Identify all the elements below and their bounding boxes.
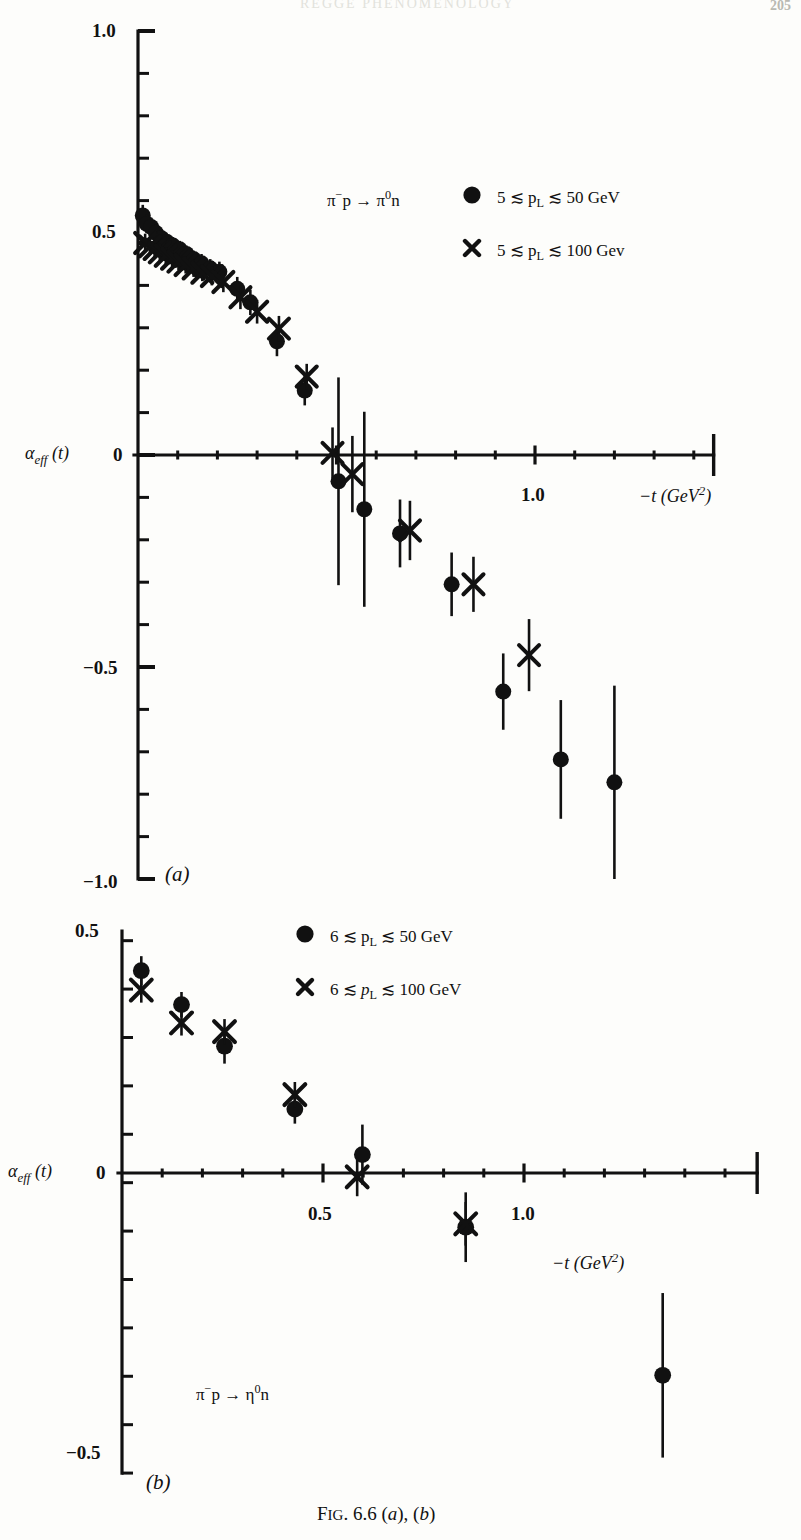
panel-a-axis-title: αeff (t)	[25, 443, 69, 468]
figure-caption: FIG. 6.6 (a), (b)	[317, 1503, 435, 1525]
panel-b-id: (b)	[146, 1470, 171, 1495]
panel-b-axis-title: αeff (t)	[8, 1161, 52, 1186]
panel-a-reaction-label: π−p → π0n	[327, 188, 400, 211]
panel-b-xaxis-title: −t (GeV2)	[552, 1250, 624, 1274]
panel-b-legend-item-1: 6 ≲ pL ≲ 100 GeV	[330, 979, 461, 1003]
panel-b-ylabel-0: 0	[96, 1162, 106, 1184]
figure-6-6: REGGE PHENOMENOLOGY 205 1.0 0.5 0 −0.5 −…	[0, 0, 801, 1540]
panel-a-xlabel-1: 1.0	[521, 484, 545, 506]
panel-a-ylabel-neg05: −0.5	[83, 657, 118, 679]
panel-a-id: (a)	[165, 862, 190, 887]
panel-a-ylabel-0: 0	[113, 444, 123, 466]
panel-a-ylabel-neg1: −1.0	[83, 871, 118, 893]
panel-a-legend-item-0: 5 ≲ pL ≲ 50 GeV	[497, 187, 620, 211]
panel-b-reaction-label: π−p → η0n	[196, 1382, 269, 1405]
panel-a-xaxis-title: −t (GeV2)	[639, 483, 711, 507]
panel-b-ylabel-05: 0.5	[75, 920, 99, 942]
panel-b-ylabel-neg05: −0.5	[66, 1442, 101, 1464]
panel-b-legend-item-0: 6 ≲ pL ≲ 50 GeV	[330, 926, 453, 950]
panel-a-legend-item-1: 5 ≲ pL ≲ 100 Gev	[497, 240, 625, 264]
panel-b-xlabel-05: 0.5	[308, 1203, 332, 1225]
panel-b-xlabel-1: 1.0	[511, 1203, 535, 1225]
panel-a-ylabel-1: 1.0	[92, 20, 116, 42]
panel-a-ylabel-05: 0.5	[92, 221, 116, 243]
